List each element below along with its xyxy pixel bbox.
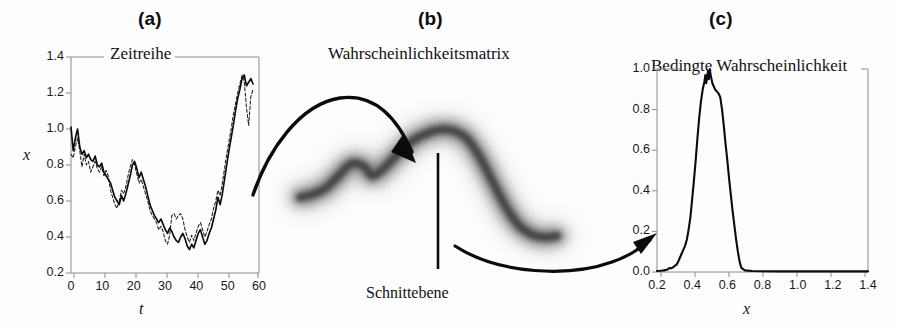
panel-b-density-band [300,129,557,237]
ticks-a-y-label: 1.0 [32,121,64,135]
arrow-a-to-b [253,97,416,195]
panel-c-title: Bedingte Wahrscheinlichkeit [645,56,853,76]
ticks-c-y-label: 0.4 [618,183,650,197]
ticks-a-x-label: 50 [212,279,244,293]
ticks-a-x-label: 10 [86,279,118,293]
ticks-a-y-label: 1.4 [32,49,64,63]
panel-c-ticks [652,69,865,277]
ticks-a-y-label: 0.6 [32,193,64,207]
ticks-a-y-label: 0.8 [32,157,64,171]
panel-label-c: (c) [709,8,733,30]
ticks-a-y-label: 0.4 [32,229,64,243]
ticks-c-x-label: 1.2 [817,278,849,292]
panel-a-ticks [66,57,258,278]
ticks-c-x-label: 0.4 [676,278,708,292]
ticks-c-x-label: 0.6 [711,278,743,292]
panel-label-b: (b) [418,8,443,30]
ticks-a-x-label: 30 [149,279,181,293]
panel-c-plot [657,69,868,271]
ticks-c-x-label: 0.2 [641,278,673,292]
ticks-a-y-label: 1.2 [32,85,64,99]
ticks-c-y-label: 0.6 [618,142,650,156]
ticks-c-y-label: 0.0 [618,264,650,278]
ticks-a-x-label: 60 [243,279,275,293]
ticks-a-x-label: 0 [55,279,87,293]
panel-c-frame [657,69,868,272]
panel-a-frame [71,57,259,273]
ticks-c-y-label: 1.0 [618,61,650,75]
panel-label-a: (a) [138,8,162,30]
ticks-c-x-label: 1.0 [782,278,814,292]
ticks-a-x-label: 20 [118,279,150,293]
panel-b-title: Wahrscheinlichkeitsmatrix [322,44,516,64]
ticks-a-x-label: 40 [180,279,212,293]
panel-a-plot [71,75,253,250]
panel-c-xlabel: x [743,300,750,318]
figure-root: (a) (b) (c) Zeitreihe Wahrscheinlichkeit… [0,0,897,327]
ticks-c-x-label: 1.4 [852,278,884,292]
panel-a-ylabel: x [23,146,30,164]
ticks-c-x-label: 0.8 [747,278,779,292]
ticks-c-y-label: 0.8 [618,102,650,116]
panel-a-xlabel: t [139,300,143,318]
ticks-a-y-label: 0.2 [32,265,64,279]
panel-a-title: Zeitreihe [104,44,177,64]
ticks-c-y-label: 0.2 [618,223,650,237]
panel-b-cutplane-label: Schnittebene [366,284,449,302]
